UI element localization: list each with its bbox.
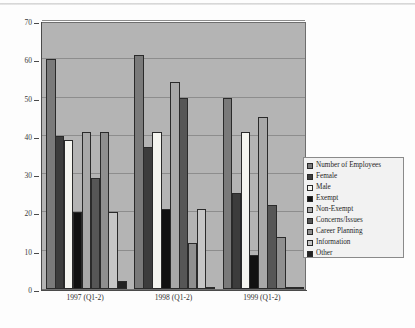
bar — [285, 287, 295, 289]
legend-item-label: Information — [316, 238, 350, 247]
y-axis-tick-label: 70 — [25, 19, 33, 27]
legend-swatch-icon — [307, 196, 313, 202]
legend-swatch-icon — [307, 185, 313, 191]
y-axis-line — [41, 22, 42, 291]
y-axis-labels: 010203040506070 — [0, 22, 39, 291]
legend-item[interactable]: Male — [307, 182, 400, 193]
bar — [249, 255, 259, 289]
legend-item-label: Other — [316, 249, 332, 258]
y-axis-tick-label: 10 — [25, 249, 33, 257]
chart-legend: Number of EmployeesFemaleMaleExemptNon-E… — [303, 157, 404, 258]
y-axis-tick-label: 20 — [25, 210, 33, 218]
x-axis-line — [41, 290, 307, 291]
y-axis-tick — [34, 291, 39, 292]
gridline — [42, 20, 305, 21]
y-axis-tick — [34, 23, 39, 24]
legend-item[interactable]: Female — [307, 171, 400, 182]
legend-swatch-icon — [307, 229, 313, 235]
page-top-rule — [0, 3, 415, 5]
legend-swatch-icon — [307, 240, 313, 246]
legend-swatch-icon — [307, 218, 313, 224]
y-axis-tick-label: 40 — [25, 134, 33, 142]
bar — [91, 178, 101, 289]
bar — [108, 212, 118, 289]
bar — [258, 117, 268, 289]
bar — [197, 209, 207, 289]
bar — [100, 132, 110, 289]
y-axis-tick-label: 0 — [28, 287, 32, 295]
legend-swatch-icon — [307, 163, 313, 169]
y-axis-tick-label: 50 — [25, 96, 33, 104]
legend-swatch-icon — [307, 207, 313, 213]
y-axis-tick — [34, 214, 39, 215]
y-axis-tick-label: 30 — [25, 172, 33, 180]
y-axis-tick — [34, 61, 39, 62]
bar — [188, 243, 198, 289]
bar — [267, 205, 277, 289]
bar — [73, 212, 83, 289]
legend-item-label: Female — [316, 172, 337, 181]
legend-item[interactable]: Concerns/Issues — [307, 215, 400, 226]
y-axis-tick — [34, 138, 39, 139]
bar — [64, 140, 74, 289]
y-axis-tick-label: 60 — [25, 57, 33, 65]
bar — [82, 132, 92, 289]
plot-background — [41, 22, 306, 290]
bar — [294, 287, 304, 289]
bar — [46, 59, 56, 289]
y-axis-tick — [34, 100, 39, 101]
bar — [152, 132, 162, 289]
y-axis-tick — [34, 253, 39, 254]
legend-swatch-icon — [307, 174, 313, 180]
legend-item[interactable]: Exempt — [307, 193, 400, 204]
x-axis-category-label: 1999 (Q1-2) — [243, 293, 280, 302]
bar — [143, 147, 153, 289]
legend-item-label: Concerns/Issues — [316, 216, 363, 225]
gridline — [42, 58, 305, 59]
bar — [223, 98, 233, 289]
bar — [276, 237, 286, 289]
legend-item[interactable]: Information — [307, 237, 400, 248]
bar — [55, 136, 65, 289]
bar — [206, 287, 216, 289]
bar — [170, 82, 180, 289]
chart-page: 010203040506070 1997 (Q1-2)1998 (Q1-2)19… — [0, 0, 415, 328]
y-axis-tick — [34, 176, 39, 177]
legend-item[interactable]: Career Planning — [307, 226, 400, 237]
bar — [179, 98, 189, 289]
bar — [241, 132, 251, 289]
x-axis-category-label: 1998 (Q1-2) — [155, 293, 192, 302]
legend-item-label: Number of Employees — [316, 161, 381, 170]
x-axis-category-label: 1997 (Q1-2) — [67, 293, 104, 302]
bar — [232, 193, 242, 289]
legend-item[interactable]: Other — [307, 248, 400, 259]
legend-item-label: Exempt — [316, 194, 338, 203]
bar — [117, 281, 127, 289]
legend-item-label: Career Planning — [316, 227, 363, 236]
plot-area — [41, 22, 306, 290]
legend-item-label: Non-Exempt — [316, 205, 353, 214]
legend-item[interactable]: Number of Employees — [307, 160, 400, 171]
bar — [161, 209, 171, 289]
legend-item[interactable]: Non-Exempt — [307, 204, 400, 215]
legend-swatch-icon — [307, 251, 313, 257]
bar — [134, 55, 144, 289]
x-axis-labels: 1997 (Q1-2)1998 (Q1-2)1999 (Q1-2) — [41, 293, 307, 309]
legend-item-label: Male — [316, 183, 331, 192]
